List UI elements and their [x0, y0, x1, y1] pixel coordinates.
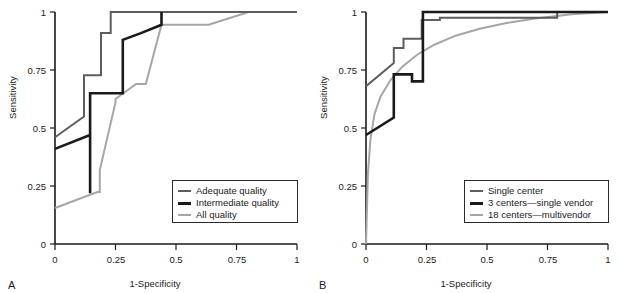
panel-b-ytick-0: 0: [337, 239, 357, 250]
legend-line-swatch-icon: [178, 202, 191, 205]
legend-line-swatch-icon: [470, 214, 483, 216]
panel-a-ytick-1: 1: [26, 7, 46, 18]
panel-a-ytick-0: 0: [26, 239, 46, 250]
panel-a-xtick-0: 0: [52, 254, 57, 265]
panel-a-ytick-075: 0.75: [18, 65, 46, 76]
panel-b-plot: [311, 0, 621, 293]
series-intermediate-quality: [55, 12, 162, 193]
legend-label: Single center: [488, 185, 543, 197]
panel-b-letter: B: [319, 279, 327, 291]
panel-a-xlabel: 1-Specificity: [0, 278, 310, 289]
panel-a-xtick-025: 0.25: [107, 254, 126, 265]
panel-b-ytick-075: 0.75: [329, 65, 357, 76]
panel-b-ytick-025: 0.25: [329, 181, 357, 192]
legend-item-all-quality: All quality: [178, 209, 291, 221]
panel-a-ylabel: Sensitivity: [7, 53, 18, 143]
roc-figure: 1 0.75 0.5 0.25 0 0 0.25 0.5 0.75 1 Sens…: [0, 0, 621, 293]
legend-label: All quality: [196, 209, 237, 221]
legend-item-3-centers-single-vendor: 3 centers—single vendor: [470, 197, 602, 209]
legend-item-single-center: Single center: [470, 185, 602, 197]
panel-a-ytick-05: 0.5: [22, 123, 46, 134]
panel-b-legend: Single center 3 centers—single vendor 18…: [464, 180, 609, 223]
panel-b-xtick-0: 0: [363, 254, 368, 265]
panel-a-letter: A: [8, 279, 16, 291]
panel-a-ytick-025: 0.25: [18, 181, 46, 192]
legend-label: Adequate quality: [196, 185, 267, 197]
panel-a-xtick-075: 0.75: [228, 254, 247, 265]
panel-a-plot: [0, 0, 310, 293]
legend-line-swatch-icon: [470, 190, 483, 192]
legend-label: Intermediate quality: [196, 197, 279, 209]
panel-a-xtick-1: 1: [294, 254, 299, 265]
panel-a-legend: Adequate quality Intermediate quality Al…: [172, 180, 298, 223]
panel-b-ytick-1: 1: [337, 7, 357, 18]
panel-b-ylabel: Sensitivity: [318, 53, 329, 143]
legend-label: 3 centers—single vendor: [488, 197, 593, 209]
panel-b-xtick-075: 0.75: [539, 254, 558, 265]
panel-b: 1 0.75 0.5 0.25 0 0 0.25 0.5 0.75 1 Sens…: [311, 0, 621, 293]
panel-a-series: [55, 12, 297, 208]
legend-item-adequate-quality: Adequate quality: [178, 185, 291, 197]
legend-line-swatch-icon: [178, 190, 191, 192]
series-3-centers-single-vendor: [366, 12, 608, 135]
legend-item-intermediate-quality: Intermediate quality: [178, 197, 291, 209]
legend-line-swatch-icon: [178, 214, 191, 216]
panel-b-xtick-025: 0.25: [418, 254, 437, 265]
panel-a: 1 0.75 0.5 0.25 0 0 0.25 0.5 0.75 1 Sens…: [0, 0, 310, 293]
panel-b-xlabel: 1-Specificity: [311, 278, 621, 289]
panel-b-xtick-05: 0.5: [480, 254, 493, 265]
legend-label: 18 centers—multivendor: [488, 209, 591, 221]
panel-a-xtick-05: 0.5: [169, 254, 182, 265]
legend-line-swatch-icon: [470, 202, 483, 205]
legend-item-18-centers-multivendor: 18 centers—multivendor: [470, 209, 602, 221]
panel-b-ytick-05: 0.5: [333, 123, 357, 134]
panel-b-xtick-1: 1: [605, 254, 610, 265]
